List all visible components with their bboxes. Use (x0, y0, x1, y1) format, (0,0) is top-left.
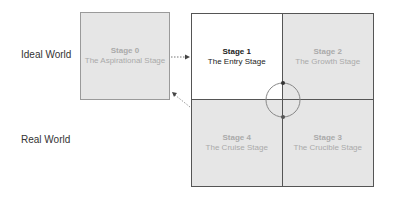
arrow-stage0-to-stage1 (171, 55, 190, 60)
arrow-return-to-stage0 (172, 92, 190, 107)
cycle-circle-icon (266, 81, 300, 119)
connector-overlay (0, 0, 393, 199)
